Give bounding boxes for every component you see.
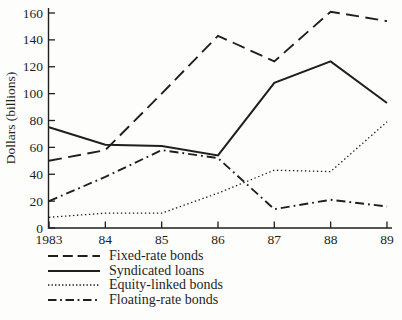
y-tick-label: 60: [30, 140, 44, 155]
dotted-line-sample-icon: [48, 280, 100, 290]
legend-label-equity-linked-bonds: Equity-linked bonds: [109, 278, 223, 292]
series-line-floating-rate-bonds: [49, 150, 387, 209]
legend-item-equity-linked-bonds: Equity-linked bonds: [48, 278, 402, 293]
x-tick-label: 86: [211, 232, 225, 247]
y-tick-label: 140: [23, 32, 44, 47]
y-tick-label: 20: [30, 194, 44, 209]
x-tick-label: 88: [324, 232, 338, 247]
y-tick-label: 160: [23, 6, 44, 21]
axes: [49, 8, 393, 228]
series-line-syndicated-loans: [49, 61, 387, 155]
legend-item-floating-rate-bonds: Floating-rate bonds: [48, 293, 402, 308]
x-tick-label: 1983: [36, 232, 63, 247]
y-axis-title: Dollars (billions): [3, 72, 18, 165]
dashed-line-sample-icon: [48, 251, 100, 261]
x-tick-label: 84: [99, 232, 113, 247]
legend-item-syndicated-loans: Syndicated loans: [48, 264, 402, 279]
series-line-fixed-rate-bonds: [49, 12, 387, 161]
solid-line-sample-icon: [48, 266, 100, 276]
y-tick-label: 80: [30, 113, 44, 128]
y-tick-label: 120: [23, 59, 44, 74]
legend-label-syndicated-loans: Syndicated loans: [109, 264, 204, 278]
series-line-equity-linked-bonds: [49, 122, 387, 218]
x-tick-label: 87: [268, 232, 282, 247]
chart-plot-area: 0204060801001201401601983848586878889Dol…: [0, 0, 402, 248]
y-tick-label: 100: [23, 86, 44, 101]
y-tick-label: 40: [30, 167, 44, 182]
dashdot-line-sample-icon: [48, 295, 100, 305]
legend-label-fixed-rate-bonds: Fixed-rate bonds: [109, 249, 203, 263]
x-tick-label: 85: [155, 232, 169, 247]
chart-legend: Fixed-rate bonds Syndicated loans Equity…: [0, 249, 402, 307]
legend-label-floating-rate-bonds: Floating-rate bonds: [109, 293, 218, 307]
x-tick-label: 89: [380, 232, 394, 247]
line-chart-figure: 0204060801001201401601983848586878889Dol…: [0, 0, 402, 320]
legend-item-fixed-rate-bonds: Fixed-rate bonds: [48, 249, 402, 264]
